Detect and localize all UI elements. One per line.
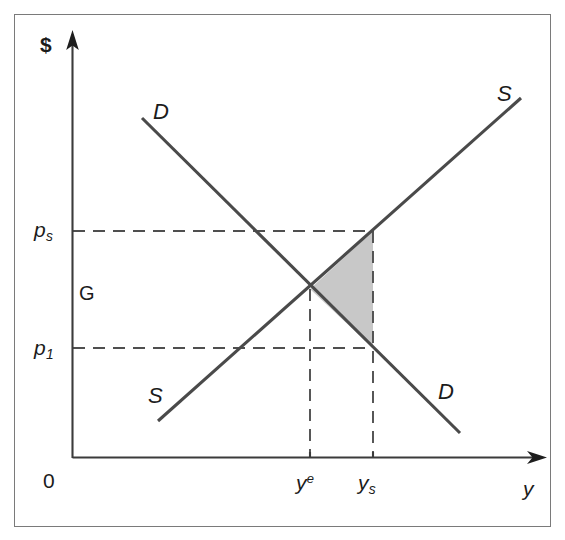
- quantity-label-ye-base: y: [296, 471, 307, 494]
- quantity-label-ye: ye: [296, 472, 314, 493]
- supply-curve-label-lower: S: [148, 385, 163, 407]
- supply-demand-chart: [0, 0, 565, 540]
- supply-curve-label-upper: S: [497, 83, 512, 105]
- price-label-p1-sub: 1: [46, 346, 54, 362]
- quantity-label-ys: ys: [358, 472, 375, 493]
- demand-curve-label-upper: D: [153, 101, 169, 123]
- supply-curve: [158, 98, 521, 421]
- price-label-p1: p1: [34, 337, 53, 358]
- price-label-ps-sub: s: [46, 228, 53, 244]
- y-axis-label: $: [40, 34, 52, 55]
- price-label-ps: ps: [34, 219, 53, 240]
- price-label-ps-base: p: [34, 218, 46, 241]
- x-axis-label: y: [523, 478, 534, 499]
- origin-label: 0: [43, 470, 55, 491]
- quantity-label-ys-base: y: [358, 471, 369, 494]
- gap-annotation-label: G: [79, 283, 95, 303]
- price-label-p1-base: p: [34, 336, 46, 359]
- demand-curve: [142, 118, 460, 433]
- deadweight-loss-shaded-triangle: [310, 231, 373, 348]
- figure-root: $ y 0 ps p1 G ye ys D D S S: [0, 0, 565, 540]
- demand-curve-label-lower: D: [438, 381, 454, 403]
- quantity-label-ye-sup: e: [307, 471, 314, 486]
- quantity-label-ys-sub: s: [369, 481, 376, 497]
